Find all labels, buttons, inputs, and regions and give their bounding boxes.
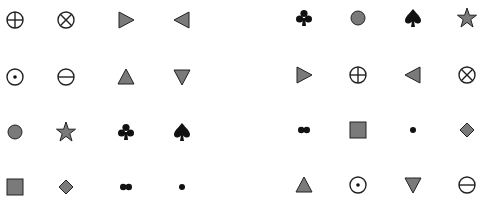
small-dot-icon <box>170 175 194 199</box>
triangle-up-icon <box>292 173 316 197</box>
triangle-left-icon <box>170 8 194 32</box>
circle-plus-icon <box>3 8 27 32</box>
spade-icon <box>170 120 194 144</box>
double-dot-icon <box>114 175 138 199</box>
circle-dot-icon <box>3 65 27 89</box>
triangle-down-icon <box>170 65 194 89</box>
square-icon <box>3 175 27 199</box>
square-icon <box>346 118 370 142</box>
circle-filled-icon <box>346 6 370 30</box>
club-icon <box>292 6 316 30</box>
star-icon <box>455 6 479 30</box>
circle-filled-icon <box>3 120 27 144</box>
club-icon <box>114 120 138 144</box>
triangle-up-icon <box>114 65 138 89</box>
star-icon <box>54 120 78 144</box>
circle-times-icon <box>54 8 78 32</box>
triangle-right-icon <box>292 63 316 87</box>
diamond-icon <box>455 118 479 142</box>
circle-dot-icon <box>346 173 370 197</box>
double-dot-icon <box>292 118 316 142</box>
circle-minus-icon <box>54 65 78 89</box>
triangle-left-icon <box>401 63 425 87</box>
diamond-icon <box>54 175 78 199</box>
circle-minus-icon <box>455 173 479 197</box>
spade-icon <box>401 6 425 30</box>
triangle-down-icon <box>401 173 425 197</box>
triangle-right-icon <box>114 8 138 32</box>
circle-times-icon <box>455 63 479 87</box>
small-dot-icon <box>401 118 425 142</box>
circle-plus-icon <box>346 63 370 87</box>
